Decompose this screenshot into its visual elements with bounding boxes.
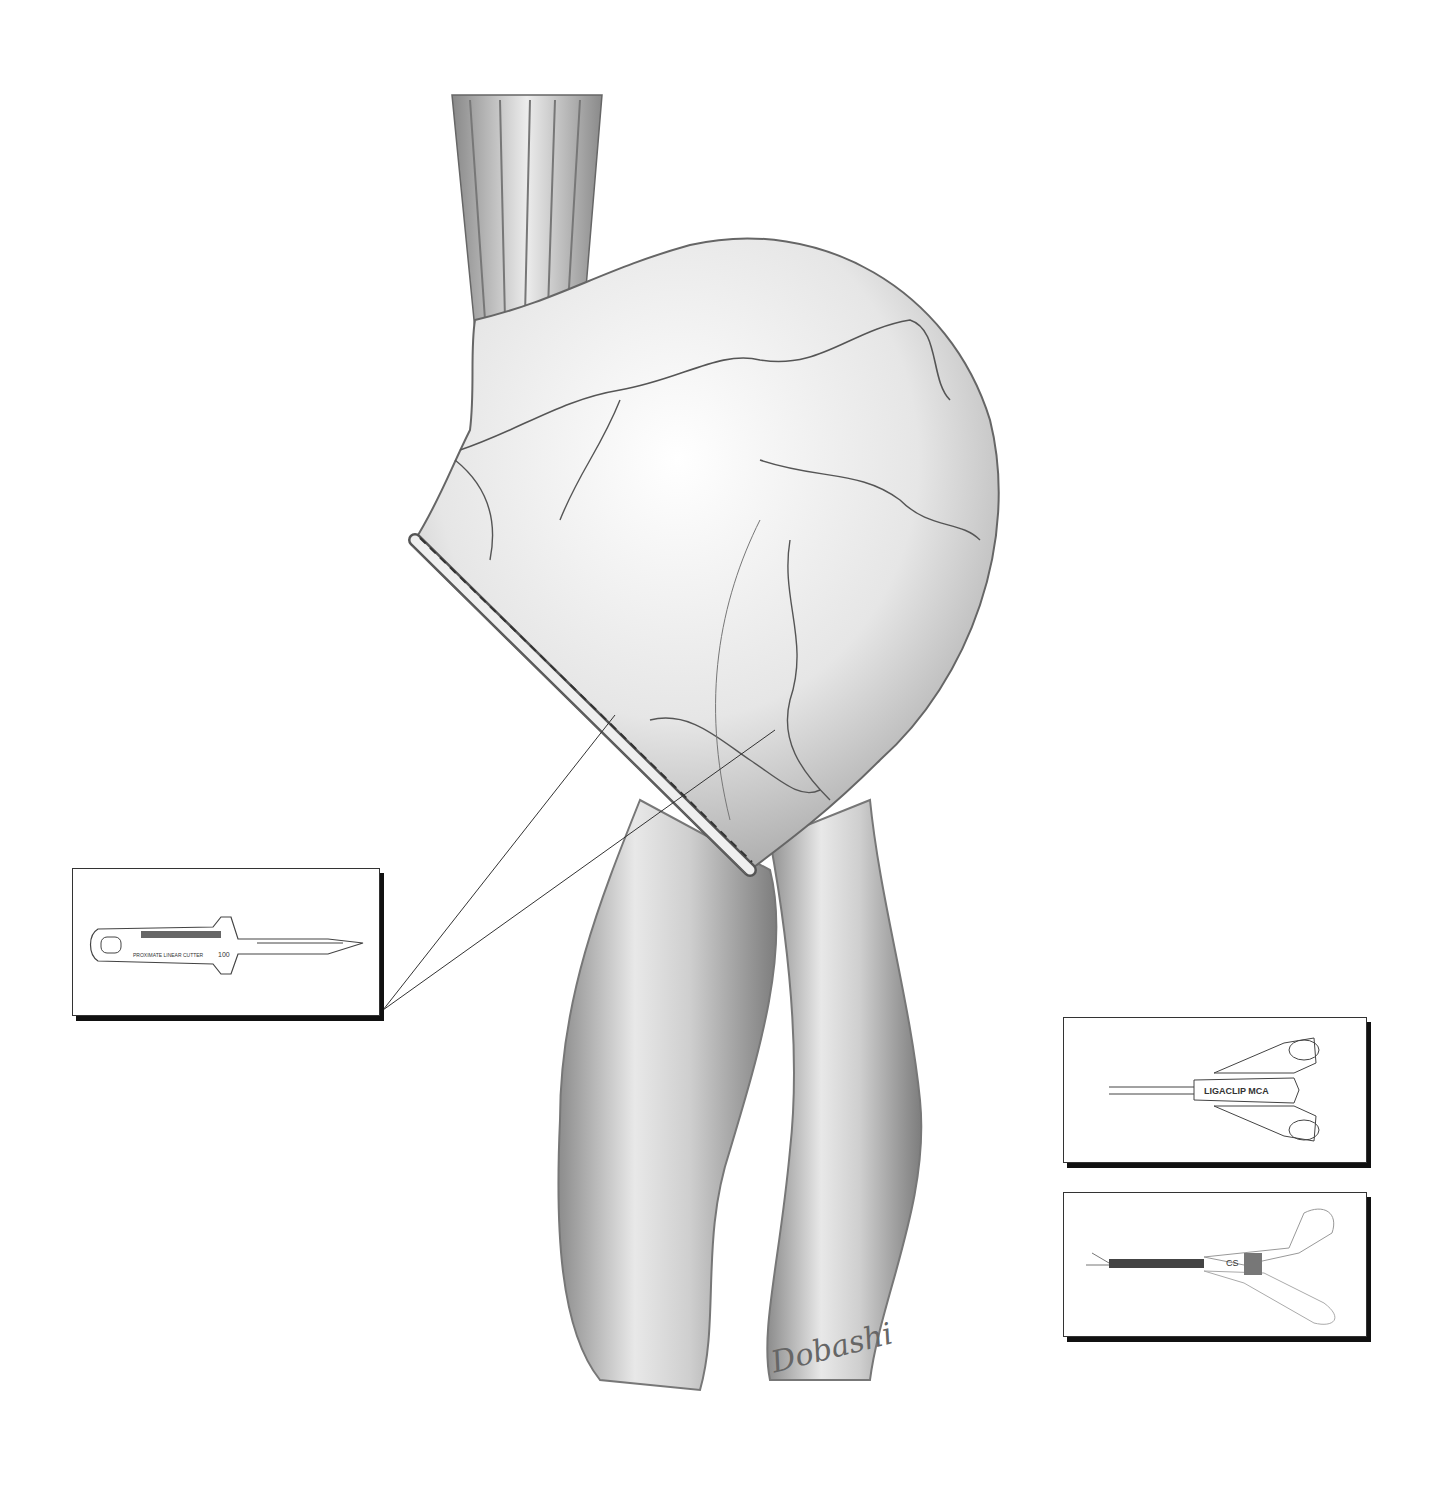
linear-cutter-icon: PROXIMATE LINEAR CUTTER 100: [73, 869, 379, 1015]
inset-clip-applier: CS: [1063, 1192, 1367, 1337]
intestine-limbs: [558, 800, 921, 1390]
inset-linear-cutter: PROXIMATE LINEAR CUTTER 100: [72, 868, 380, 1016]
ligaclip-applier-icon: LIGACLIP MCA: [1064, 1018, 1366, 1162]
stomach: [412, 238, 999, 874]
cutter-size: 100: [218, 951, 230, 958]
cutter-label: PROXIMATE LINEAR CUTTER: [133, 952, 204, 958]
ligaclip-label: LIGACLIP MCA: [1204, 1086, 1269, 1096]
clip-applier-icon: CS: [1064, 1193, 1366, 1336]
clip-applier-label: CS: [1226, 1258, 1239, 1268]
inset-ligaclip: LIGACLIP MCA: [1063, 1017, 1367, 1163]
